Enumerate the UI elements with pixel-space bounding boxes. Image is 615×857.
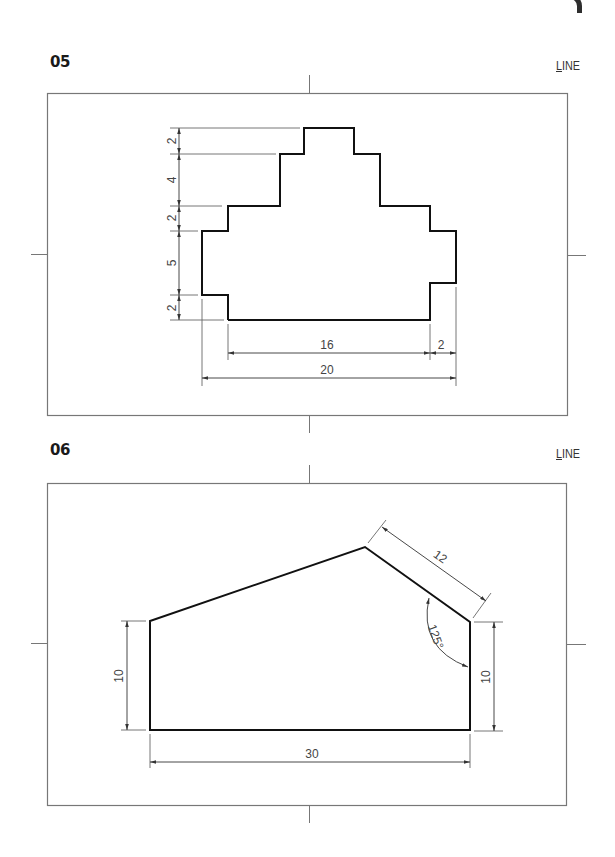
- dim-text: 5: [165, 259, 179, 266]
- dim-text-2: 2: [438, 338, 445, 352]
- dim-text-right-10: 10: [479, 670, 493, 684]
- dim-text-left-10: 10: [112, 669, 126, 683]
- stepped-profile-outline: [202, 128, 456, 320]
- dim-text-16: 16: [320, 338, 334, 352]
- pentagon-profile-outline: [150, 547, 470, 730]
- dim-text-30: 30: [305, 747, 319, 761]
- drawing-sheet: 2 4 2 5 2 16 2 20: [0, 0, 615, 857]
- dim-text: 2: [165, 304, 179, 311]
- dim-text: 2: [165, 214, 179, 221]
- dim-text: 2: [165, 137, 179, 144]
- exercise-05-drawing: 2 4 2 5 2 16 2 20: [31, 75, 586, 433]
- dim-text-125-degrees: 125°: [425, 623, 447, 651]
- exercise-06-drawing: 10 10 30 12 125°: [31, 465, 586, 823]
- slant-length-dimension-line: [382, 527, 486, 601]
- dim-text: 4: [165, 176, 179, 183]
- dim-text-20: 20: [320, 363, 334, 377]
- drawing-frame: [48, 94, 568, 416]
- slant-extension-lines: [368, 520, 491, 618]
